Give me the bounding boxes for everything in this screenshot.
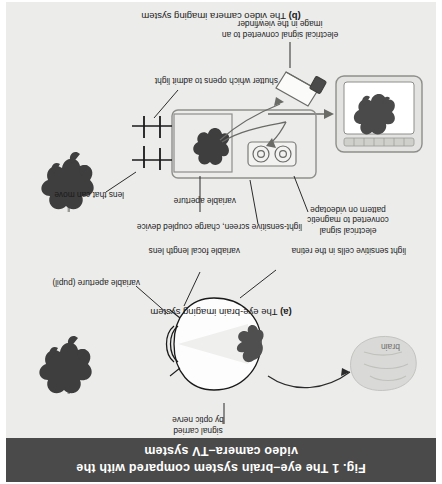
leader-retina-cells xyxy=(240,270,276,298)
viewfinder-shape xyxy=(276,72,327,106)
panel-b-caption-label: (b) xyxy=(289,11,301,22)
leader-ccd-screen xyxy=(250,180,258,224)
label-electrical-signal-videotape: electrical signal converted to magnetic … xyxy=(300,205,396,237)
tv-monitor-shape xyxy=(336,76,422,152)
object-tree-camera xyxy=(41,152,93,212)
lens-barrel-shutter-shape xyxy=(132,116,172,170)
label-viewfinder-image-line-1: electrical signal converted to an xyxy=(222,30,338,40)
label-electrical-signal-videotape-line-3: pattern on videotape xyxy=(310,205,386,215)
panel-eye-brain-system: signal carried by optic nerve variable a… xyxy=(6,238,436,438)
figure-title-bar: Fig. 1 The eye–brain system compared wit… xyxy=(6,438,436,482)
figure-title-line-1: Fig. 1 The eye–brain system compared wit… xyxy=(76,461,366,477)
label-signal-optic-nerve: signal carried by optic nerve xyxy=(138,415,258,436)
panel-b-caption: (b) The video camera imaging system xyxy=(6,11,436,22)
scanned-figure-page: Fig. 1 The eye–brain system compared wit… xyxy=(0,0,442,484)
panel-a-caption: (a) The eye-brain imaging system xyxy=(6,307,436,318)
label-electrical-signal-videotape-line-2: converted to magnetic xyxy=(307,216,389,226)
figure-title-line-2: video camera–TV system xyxy=(144,444,298,460)
panel-a-caption-label: (a) xyxy=(280,307,292,318)
label-signal-optic-nerve-line-2: by optic nerve xyxy=(172,416,224,426)
label-variable-focal-length-lens: variable focal length lens xyxy=(149,246,240,257)
label-electrical-signal-videotape-line-1: electrical signal xyxy=(320,226,377,236)
label-viewfinder-image: electrical signal converted to an image … xyxy=(190,19,370,40)
object-tree-eye xyxy=(39,336,91,394)
label-lens-that-can-move: lens that can move xyxy=(54,190,124,201)
eye-brain-diagram-art xyxy=(6,238,436,438)
label-light-sensitive-cells-retina: light sensitive cells in the retina xyxy=(292,246,406,257)
label-variable-aperture-camera: variable aperture xyxy=(174,196,236,207)
label-signal-optic-nerve-line-1: signal carried xyxy=(173,426,222,436)
label-brain: brain xyxy=(381,342,400,353)
signal-path-curves xyxy=(220,97,286,148)
camera-body-shape xyxy=(172,110,316,178)
panel-b-caption-text: The video camera imaging system xyxy=(141,11,286,22)
label-shutter-admit-light: shutter which opens to admit light xyxy=(155,76,278,87)
label-variable-aperture-pupil: variable aperture (pupil) xyxy=(52,278,140,289)
panel-video-camera-system: light-sensitive screen, charge coupled d… xyxy=(6,4,436,238)
optic-nerve-arrow xyxy=(268,368,350,388)
label-ccd-screen: light-sensitive screen, charge coupled d… xyxy=(137,222,302,233)
panel-a-caption-text: The eye-brain imaging system xyxy=(150,307,277,318)
